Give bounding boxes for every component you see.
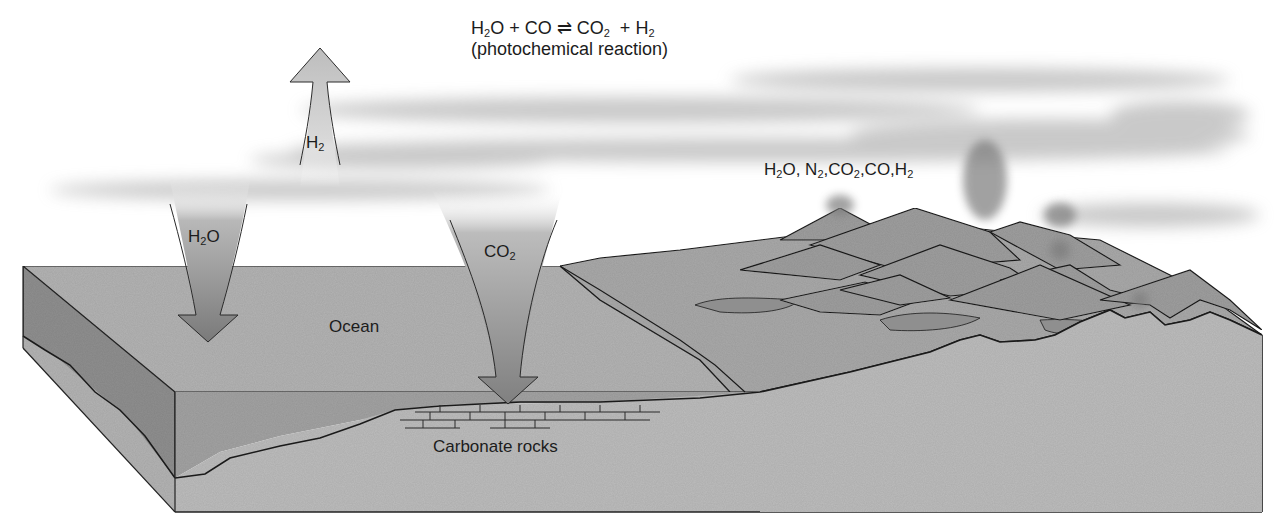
formula-part: O [490,18,504,38]
formula-part: CO [525,18,552,38]
atmosphere-evolution-diagram: H2O + CO ⇌ CO2 + H2 (photochemical react… [0,0,1277,530]
carbonate-rocks-label: Carbonate rocks [433,438,558,455]
diagram-canvas [0,0,1277,530]
formula-part: H [635,18,648,38]
formula-part: CO [577,18,604,38]
plus-sign: + [620,18,631,38]
volcanic-gases-label: H2O, N2,CO2,CO,H2 [764,161,913,180]
formula-subscript: 2 [648,27,654,39]
formula-subscript: 2 [604,27,610,39]
reaction-note: (photochemical reaction) [471,40,668,58]
h2o-arrow-label: H2O [188,228,220,247]
co2-arrow-label: CO2 [484,243,516,262]
photochemical-equation: H2O + CO ⇌ CO2 + H2 [471,19,655,39]
h2-arrow-label: H2 [306,134,324,153]
ocean-label: Ocean [329,318,379,335]
equilibrium-arrow-icon: ⇌ [557,18,572,38]
plus-sign: + [509,18,520,38]
formula-part: H [471,18,484,38]
